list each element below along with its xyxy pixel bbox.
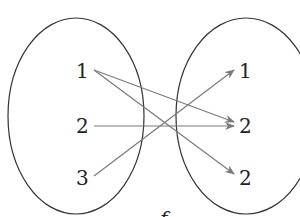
arrow-1-to-2-middle <box>94 70 234 122</box>
function-label: f <box>158 207 171 217</box>
codomain-element-1: 1 <box>239 59 252 83</box>
codomain-set-ellipse <box>176 18 300 214</box>
mapping-diagram: 1 2 3 1 2 2 f <box>0 0 300 217</box>
domain-element-2: 2 <box>76 114 89 138</box>
domain-element-3: 3 <box>76 166 89 190</box>
codomain-element-2-middle: 2 <box>239 114 252 138</box>
codomain-element-2-bottom: 2 <box>239 166 252 190</box>
domain-element-1: 1 <box>76 59 89 83</box>
